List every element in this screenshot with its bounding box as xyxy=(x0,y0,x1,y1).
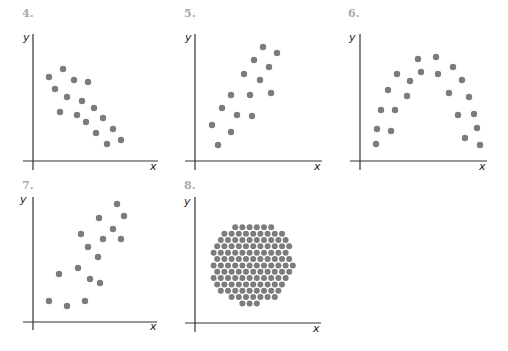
data-point xyxy=(236,281,242,287)
data-point xyxy=(239,300,245,306)
data-point xyxy=(97,280,103,286)
data-point xyxy=(78,231,84,237)
data-point xyxy=(418,69,424,75)
data-point xyxy=(247,224,253,230)
data-point xyxy=(229,281,235,287)
data-point xyxy=(243,231,249,237)
data-point xyxy=(118,236,124,242)
data-point xyxy=(266,64,272,70)
data-point xyxy=(250,281,256,287)
data-point xyxy=(279,281,285,287)
data-point xyxy=(373,141,379,147)
data-point xyxy=(236,269,242,275)
data-point xyxy=(229,231,235,237)
data-point xyxy=(247,262,253,268)
data-point xyxy=(272,256,278,262)
data-point xyxy=(215,142,221,148)
data-point xyxy=(225,237,231,243)
data-point xyxy=(114,201,120,207)
data-point xyxy=(221,231,227,237)
data-point xyxy=(268,90,274,96)
data-point xyxy=(232,224,238,230)
data-point xyxy=(283,262,289,268)
data-point xyxy=(218,250,224,256)
plot-number-label: 4. xyxy=(22,7,33,20)
x-axis-label: x xyxy=(478,160,486,173)
data-point xyxy=(225,288,231,294)
data-point xyxy=(268,262,274,268)
data-point xyxy=(225,275,231,281)
data-point xyxy=(214,281,220,287)
data-point xyxy=(232,275,238,281)
data-point xyxy=(225,262,231,268)
data-point xyxy=(275,288,281,294)
data-point xyxy=(265,231,271,237)
data-point xyxy=(110,226,116,232)
data-point xyxy=(446,90,452,96)
data-point xyxy=(268,288,274,294)
scatter-plot-8: 8.yx xyxy=(183,179,321,335)
data-point xyxy=(104,141,110,147)
data-point xyxy=(232,237,238,243)
data-point xyxy=(250,256,256,262)
y-axis-label: y xyxy=(348,31,356,44)
data-point xyxy=(385,87,391,93)
data-point xyxy=(221,243,227,249)
plot-number-label: 8. xyxy=(184,179,195,192)
data-point xyxy=(60,66,66,72)
data-point xyxy=(93,130,99,136)
data-point xyxy=(265,256,271,262)
y-axis-label: y xyxy=(19,193,27,206)
data-point xyxy=(56,271,62,277)
data-point xyxy=(257,281,263,287)
data-point xyxy=(85,244,91,250)
data-point xyxy=(52,86,58,92)
data-point xyxy=(250,243,256,249)
data-point xyxy=(265,243,271,249)
data-point xyxy=(378,107,384,113)
data-point xyxy=(392,107,398,113)
data-point xyxy=(95,254,101,260)
data-point xyxy=(211,262,217,268)
data-point xyxy=(71,77,77,83)
data-point xyxy=(279,269,285,275)
data-point xyxy=(229,294,235,300)
data-point xyxy=(254,300,260,306)
data-point xyxy=(118,137,124,143)
data-point xyxy=(279,256,285,262)
data-point xyxy=(243,294,249,300)
data-point xyxy=(374,126,380,132)
data-point xyxy=(474,125,480,131)
data-point xyxy=(290,262,296,268)
data-point xyxy=(477,142,483,148)
data-point xyxy=(272,269,278,275)
data-point xyxy=(218,275,224,281)
plot-number-label: 6. xyxy=(348,7,359,20)
data-point xyxy=(91,105,97,111)
data-point xyxy=(57,109,63,115)
data-point xyxy=(450,64,456,70)
data-point xyxy=(261,224,267,230)
data-point xyxy=(286,256,292,262)
data-point xyxy=(268,250,274,256)
data-point xyxy=(283,275,289,281)
data-point xyxy=(279,243,285,249)
data-point xyxy=(257,269,263,275)
data-point xyxy=(243,243,249,249)
data-point xyxy=(254,275,260,281)
data-point xyxy=(214,243,220,249)
plot-number-label: 7. xyxy=(22,179,33,192)
data-point xyxy=(261,275,267,281)
data-point xyxy=(74,112,80,118)
data-point xyxy=(261,237,267,243)
data-point xyxy=(221,281,227,287)
data-point xyxy=(275,250,281,256)
y-axis-label: y xyxy=(184,31,192,44)
data-point xyxy=(64,94,70,100)
data-point xyxy=(239,224,245,230)
data-point xyxy=(249,113,255,119)
data-point xyxy=(87,276,93,282)
scatter-plot-5: 5.yx xyxy=(184,7,322,173)
data-point xyxy=(247,250,253,256)
data-point xyxy=(82,298,88,304)
